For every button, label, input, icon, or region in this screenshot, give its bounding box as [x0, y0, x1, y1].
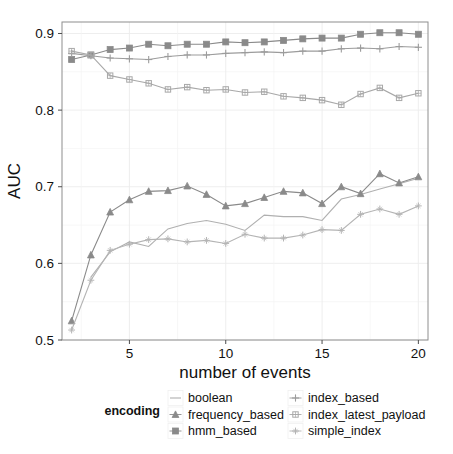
marker-square-filled [300, 36, 306, 42]
legend-label: simple_index [308, 424, 382, 438]
x-tick-label: 5 [126, 346, 134, 361]
y-axis-title: AUC [5, 163, 24, 199]
marker-square-filled [126, 45, 132, 51]
x-tick-label: 20 [411, 346, 426, 361]
marker-square-filled [165, 43, 171, 49]
x-tick-label: 10 [218, 346, 233, 361]
y-tick-label: 0.9 [35, 26, 54, 41]
marker-square-filled [184, 41, 190, 47]
marker-square-filled [319, 35, 325, 41]
legend-label: index_latest_payload [308, 408, 425, 422]
marker-square-filled [203, 41, 209, 47]
marker-square-filled [358, 31, 364, 37]
marker-square-filled [242, 40, 248, 46]
legend-label: boolean [188, 391, 233, 405]
y-tick-label: 0.8 [35, 103, 54, 118]
marker-square-filled [396, 30, 402, 36]
legend-title: encoding [104, 404, 160, 418]
marker-square-filled [173, 428, 179, 434]
y-tick-label: 0.6 [35, 256, 54, 271]
legend-item-index_latest_payload[interactable]: index_latest_payload [288, 407, 425, 422]
marker-square-filled [107, 47, 113, 53]
legend-label: index_based [308, 391, 379, 405]
y-tick-label: 0.7 [35, 179, 54, 194]
marker-square-filled [146, 41, 152, 47]
marker-square-filled [415, 31, 421, 37]
x-tick-label: 15 [315, 346, 330, 361]
marker-square-filled [261, 39, 267, 45]
marker-square-filled [377, 30, 383, 36]
marker-square-filled [338, 35, 344, 41]
marker-square-filled [223, 39, 229, 45]
legend-label: hmm_based [188, 424, 257, 438]
y-tick-label: 0.5 [35, 333, 54, 348]
chart-figure: 0.50.60.70.80.9 5101520 AUC number of ev… [0, 0, 453, 454]
x-axis-title: number of events [179, 363, 310, 382]
legend-label: frequency_based [188, 408, 284, 422]
auc-vs-events-line-chart: 0.50.60.70.80.9 5101520 AUC number of ev… [0, 0, 453, 454]
marker-square-filled [281, 37, 287, 43]
marker-square-filled [69, 57, 75, 63]
